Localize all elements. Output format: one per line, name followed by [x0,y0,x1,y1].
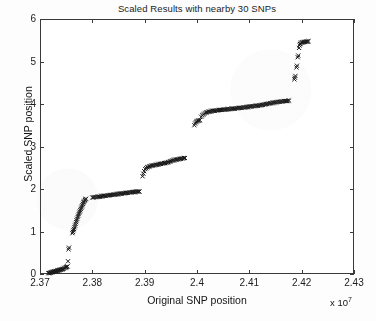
x-tick-label: 2.39 [125,277,165,288]
plot-axes-box [40,19,354,274]
chart-title: Scaled Results with nearby 30 SNPs [40,3,354,14]
x-tick-label: 2.37 [20,277,60,288]
y-axis-label: Scaled SNP position [22,54,34,214]
figure-container: Scaled Results with nearby 30 SNPs 01234… [0,0,376,321]
x-tick-label: 2.41 [229,277,269,288]
x-tick-label: 2.38 [72,277,112,288]
y-tick-label: 6 [14,13,36,24]
x-axis-tick-labels: 2.372.382.392.42.412.422.43 [0,277,376,293]
y-tick-label: 1 [14,226,36,237]
x-tick-label: 2.42 [282,277,322,288]
x-axis-label: Original SNP position [40,294,354,306]
x-axis-exponent: x 107 [330,296,352,308]
x-axis-exponent-power: 7 [348,296,352,303]
x-axis-exponent-base: x 10 [330,297,348,308]
x-tick-label: 2.43 [334,277,374,288]
x-tick-label: 2.4 [177,277,217,288]
